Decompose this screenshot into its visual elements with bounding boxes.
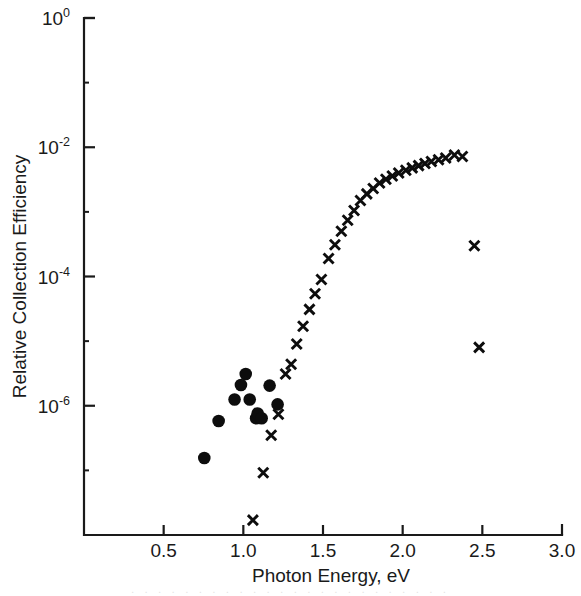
data-point-cross xyxy=(248,515,258,525)
data-point-circle xyxy=(255,412,268,425)
figure-caption-ghost: . . . . . . . . . . . . . . . . . . . . … xyxy=(0,584,581,595)
data-point-cross xyxy=(457,151,467,161)
data-point-cross xyxy=(474,342,484,352)
scatter-plot: 10010-210-410-60.51.01.52.02.53.0 Photon… xyxy=(0,0,581,596)
data-point-circle xyxy=(228,393,241,406)
data-point-cross xyxy=(316,274,326,284)
y-axis-tick-exponent: -4 xyxy=(59,265,70,279)
data-point-cross xyxy=(298,321,308,331)
y-axis-tick-exponent: -6 xyxy=(59,394,70,408)
data-point-cross xyxy=(330,240,340,250)
data-point-cross xyxy=(286,359,296,369)
y-axis-tick-exponent: -2 xyxy=(59,135,70,149)
figure-container: 10010-210-410-60.51.01.52.02.53.0 Photon… xyxy=(0,0,581,596)
y-axis-title: Relative Collection Efficiency xyxy=(9,154,30,398)
data-point-cross xyxy=(324,253,334,263)
data-point-cross xyxy=(310,289,320,299)
data-markers xyxy=(198,150,484,525)
x-axis-tick-label: 1.0 xyxy=(230,540,256,561)
y-axis-tick-exponent: 0 xyxy=(63,6,70,20)
x-axis-tick-label: 3.0 xyxy=(549,540,575,561)
y-axis-tick-label: 10-6 xyxy=(38,394,70,417)
data-point-cross xyxy=(292,339,302,349)
x-axis-tick-label: 2.5 xyxy=(469,540,495,561)
x-axis-tick-label: 1.5 xyxy=(310,540,336,561)
data-point-cross xyxy=(336,226,346,236)
x-axis-tick-label: 2.0 xyxy=(389,540,415,561)
y-axis-tick-label: 100 xyxy=(42,6,70,29)
tick-labels: 10010-210-410-60.51.01.52.02.53.0 xyxy=(38,6,575,561)
y-axis-tick-label: 10-4 xyxy=(38,265,70,288)
data-point-circle xyxy=(263,379,276,392)
data-point-cross xyxy=(258,468,268,478)
data-point-cross xyxy=(343,215,353,225)
data-point-circle xyxy=(243,393,256,406)
data-point-circle xyxy=(239,368,252,381)
data-point-circle xyxy=(198,452,211,465)
data-point-circle xyxy=(235,379,248,392)
data-point-cross xyxy=(281,369,291,379)
x-axis-title: Photon Energy, eV xyxy=(252,565,410,586)
data-point-cross xyxy=(304,304,314,314)
data-point-cross xyxy=(349,206,359,216)
x-axis-tick-label: 0.5 xyxy=(150,540,176,561)
data-point-circle xyxy=(212,415,225,428)
data-point-cross xyxy=(469,241,479,251)
data-point-cross xyxy=(266,430,276,440)
data-point-cross xyxy=(273,409,283,419)
y-axis-tick-label: 10-2 xyxy=(38,135,70,158)
